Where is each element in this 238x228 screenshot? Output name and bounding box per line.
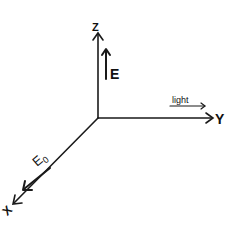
y-axis: Y <box>98 111 225 127</box>
x-axis-label: X <box>0 203 15 219</box>
z-axis: Z <box>92 21 103 118</box>
e0-field-label: E0 <box>29 149 50 171</box>
e-field-label: E <box>110 66 119 82</box>
e-field-vector: E <box>102 49 119 82</box>
coordinate-diagram: Z E Y light X E0 <box>0 0 238 228</box>
light-label: light <box>172 95 189 105</box>
e0-field-vector: E0 <box>23 149 51 190</box>
z-axis-label: Z <box>92 21 99 33</box>
y-axis-label: Y <box>215 111 225 127</box>
light-direction-arrow: light <box>170 95 205 109</box>
